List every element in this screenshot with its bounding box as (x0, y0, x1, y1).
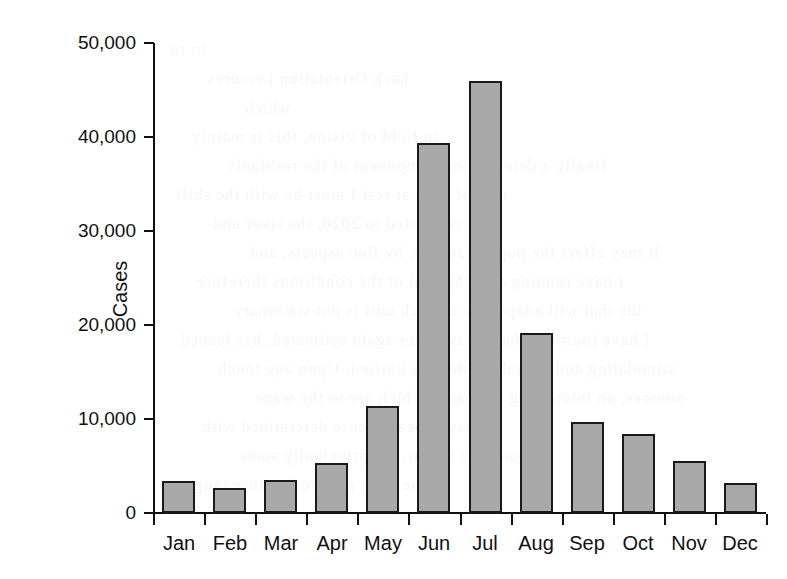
x-axis-tick (511, 514, 513, 525)
bar (724, 483, 757, 513)
bar (417, 143, 450, 513)
x-axis-tick (664, 514, 666, 525)
x-axis-tick (153, 514, 155, 525)
y-axis-tick (144, 136, 154, 138)
x-axis-tick (460, 514, 462, 525)
plot-area: Cases 50,00040,00030,00020,00010,0000 Ja… (0, 0, 787, 579)
y-axis-tick (144, 42, 154, 44)
bar (622, 434, 655, 513)
x-axis-tick (715, 514, 717, 525)
y-axis-tick (144, 324, 154, 326)
bar (673, 461, 706, 513)
y-axis-tick-label: 40,000 (40, 127, 136, 146)
x-axis-tick (255, 514, 257, 525)
x-axis-tick (357, 514, 359, 525)
bar (469, 81, 502, 513)
bar (366, 406, 399, 513)
y-axis-line (153, 43, 155, 514)
x-axis-tick-label: Dec (710, 533, 770, 553)
x-axis-tick (613, 514, 615, 525)
bar-chart: in tuhack Orientation LectureswhichIn fi… (0, 0, 787, 579)
y-axis-tick (144, 418, 154, 420)
x-axis-tick (766, 514, 768, 525)
bar (520, 333, 553, 513)
x-axis-tick (306, 514, 308, 525)
y-axis-tick-label: 20,000 (40, 315, 136, 334)
bar (264, 480, 297, 513)
x-axis-tick (562, 514, 564, 525)
bar (162, 481, 195, 513)
y-axis-tick (144, 230, 154, 232)
bar (315, 463, 348, 513)
y-axis-tick-label: 10,000 (40, 409, 136, 428)
x-axis-tick (204, 514, 206, 525)
bar (213, 488, 246, 513)
bar (571, 422, 604, 513)
x-axis-tick (408, 514, 410, 525)
y-axis-tick-label: 0 (40, 503, 136, 522)
y-axis-tick-label: 30,000 (40, 221, 136, 240)
y-axis-tick-label: 50,000 (40, 33, 136, 52)
